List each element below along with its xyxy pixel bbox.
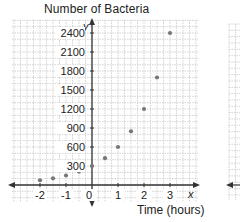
data-point: [155, 75, 159, 79]
data-point: [38, 178, 42, 182]
x-tick-neg2: -2: [33, 189, 47, 201]
y-axis-arrow-up-icon: [89, 18, 95, 25]
data-point: [90, 164, 94, 168]
x-axis-arrow-right-icon: [193, 182, 200, 188]
data-point: [51, 176, 55, 180]
y-tick-300: 300: [55, 160, 85, 172]
y-tick-1800: 1800: [55, 65, 85, 77]
data-point: [64, 173, 68, 177]
y-tick-900: 900: [55, 122, 85, 134]
data-point: [142, 107, 146, 111]
y-axis-arrow-down-icon: [89, 200, 95, 207]
x-axis-arrow-left-icon: [8, 182, 15, 188]
x-tick-neg1: -1: [59, 189, 73, 201]
y-tick-1200: 1200: [55, 103, 85, 115]
x-tick-3: 3: [163, 189, 177, 201]
grid: [12, 20, 198, 202]
y-tick-1500: 1500: [55, 84, 85, 96]
x-tick-1: 1: [111, 189, 125, 201]
x-tick-2: 2: [137, 189, 151, 201]
data-point: [168, 31, 172, 35]
x-axis-variable: x: [188, 188, 194, 200]
partial-grid-second-chart: [229, 24, 240, 200]
data-point: [116, 145, 120, 149]
data-point: [129, 129, 133, 133]
y-tick-2400: 2400: [55, 27, 85, 39]
chart-title: Number of Bacteria: [44, 2, 149, 16]
x-tick-0: 0: [82, 189, 96, 201]
data-point: [103, 156, 107, 160]
second-x-axis-arrow-left-icon: [226, 182, 233, 188]
y-tick-600: 600: [55, 141, 85, 153]
x-axis-title: Time (hours): [137, 203, 205, 217]
y-tick-2100: 2100: [55, 46, 85, 58]
